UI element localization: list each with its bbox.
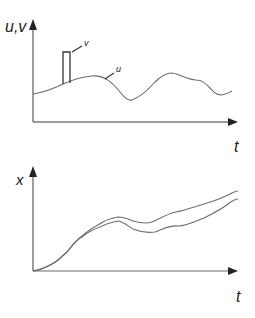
curve-x-lower — [33, 199, 238, 271]
leader-v — [72, 46, 82, 52]
curve-label-v: v — [84, 38, 89, 48]
top-x-axis-arrow-icon — [228, 118, 238, 126]
top-y-axis-arrow-icon — [29, 19, 37, 30]
top-y-axis-label: u,v — [5, 18, 27, 35]
curve-x-upper — [33, 191, 238, 271]
bottom-plot: x t — [15, 166, 241, 305]
bottom-x-axis-arrow-icon — [228, 267, 238, 275]
leader-u — [105, 73, 114, 79]
diagram-canvas: u,v t v u x t — [0, 0, 255, 318]
curve-label-u: u — [116, 64, 121, 74]
top-x-axis-label: t — [234, 138, 239, 155]
bottom-x-axis-label: t — [236, 288, 241, 305]
bottom-y-axis-arrow-icon — [29, 166, 37, 177]
top-plot: u,v t v u — [5, 18, 239, 155]
bottom-y-axis-label: x — [15, 171, 24, 188]
pulse-v — [63, 52, 70, 84]
